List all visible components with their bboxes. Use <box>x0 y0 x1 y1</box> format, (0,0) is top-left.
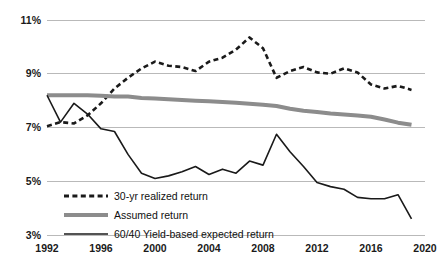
line-chart: 3%5%7%9%11% 1992199620002004200820122016… <box>0 0 444 273</box>
series-line-30-yr-realized-return <box>47 37 412 126</box>
legend-label: 30-yr realized return <box>114 190 208 202</box>
x-tick-label: 2004 <box>197 242 221 254</box>
x-tick-label: 2012 <box>305 242 329 254</box>
x-tick-label: 2016 <box>359 242 383 254</box>
x-tick-label: 2000 <box>143 242 167 254</box>
gridlines-group <box>47 20 425 235</box>
series-line-assumed-return <box>47 95 412 125</box>
x-tick-label: 1992 <box>35 242 59 254</box>
y-tick-label: 3% <box>26 229 42 241</box>
y-tick-label: 9% <box>26 67 42 79</box>
y-tick-label: 11% <box>21 14 42 26</box>
x-axis-tick-labels: 19921996200020042008201220162020 <box>35 242 437 254</box>
x-tick-label: 2020 <box>413 242 437 254</box>
chart-container: 3%5%7%9%11% 1992199620002004200820122016… <box>0 0 444 273</box>
legend-label: 60/40 Yield-based expected return <box>114 228 274 240</box>
legend-label: Assumed return <box>114 209 188 221</box>
x-tick-label: 2008 <box>251 242 275 254</box>
chart-legend: 30-yr realized returnAssumed return60/40… <box>64 190 274 240</box>
series-group <box>47 37 412 218</box>
x-tick-label: 1996 <box>89 242 113 254</box>
y-tick-label: 5% <box>26 175 42 187</box>
y-tick-label: 7% <box>26 121 42 133</box>
y-axis-tick-labels: 3%5%7%9%11% <box>21 14 42 241</box>
